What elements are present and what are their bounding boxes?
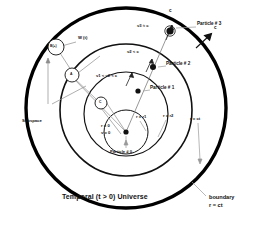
subspace-node-a-text: A: [70, 72, 72, 76]
boundary-label-line1: boundary: [209, 194, 234, 202]
particle-2-dot: [150, 64, 156, 70]
particle-2-velocity-label: v2 < c: [127, 50, 139, 54]
center-velocity-label: v = 0: [101, 131, 110, 135]
outer-boundary-circle: [26, 8, 226, 208]
particle-1-label: Particle # 1: [150, 86, 174, 91]
radius-r2-label: r = r2: [163, 114, 173, 118]
subspace-w-label: W (t): [78, 36, 87, 40]
particle-3-label: Particle # 3: [197, 22, 221, 27]
diagram-canvas: c c v3 ≈ c Particle # 3 v2 < c Particle …: [0, 0, 264, 240]
subspace-node-c-text: C: [99, 100, 101, 104]
figure-caption: Temporal (t > 0) Universe: [62, 193, 148, 200]
subspace-label: Subspace: [22, 119, 42, 123]
radius-r1-label: r = r1: [136, 115, 146, 119]
particle-1-dot: [135, 88, 140, 93]
center-radius-label: r = 0: [101, 124, 110, 128]
particle-0-label: Particle # 0: [110, 150, 132, 154]
particle-3-dot: [166, 27, 173, 34]
particle-0-dot: [123, 129, 128, 134]
light-speed-label-top: c: [169, 9, 172, 14]
particle-1-velocity-label: v1 < v2 < c: [96, 74, 117, 78]
particle-3-velocity-label: v3 ≈ c: [137, 24, 149, 28]
particle-2-label: Particle # 2: [166, 62, 190, 67]
subspace-node-b-text: B(+): [50, 44, 57, 48]
radius-ct-label: r = ct: [190, 117, 200, 121]
boundary-label-line2: r = ct: [209, 202, 223, 210]
subspace-network: [58, 42, 126, 134]
